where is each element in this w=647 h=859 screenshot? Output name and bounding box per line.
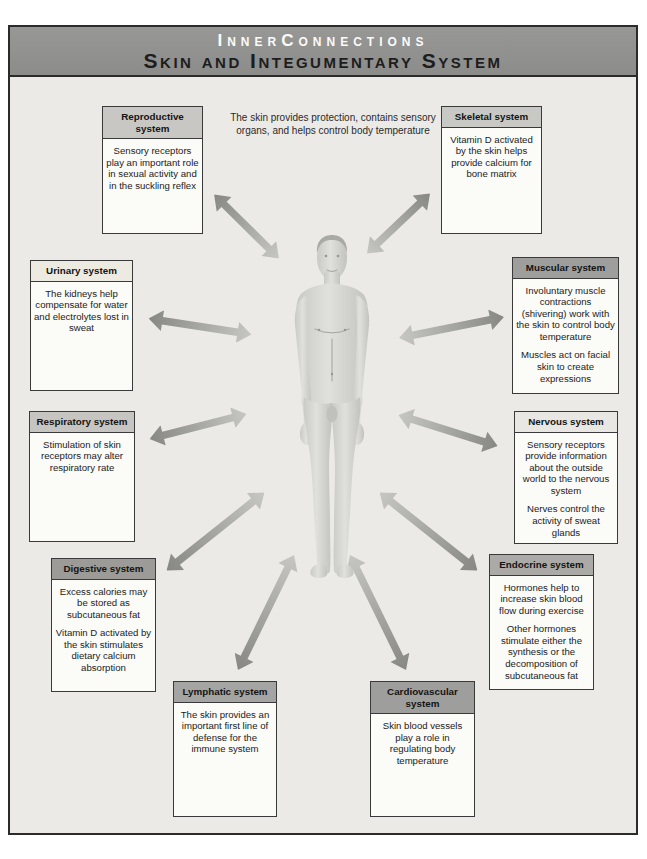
system-box-body: Stimulation of skin receptors may alter … [30,433,134,487]
system-note: Vitamin D activated by the skin helps pr… [445,134,538,180]
system-box-title: Urinary system [31,261,132,282]
system-box-body: Involuntary muscle contractions (shiveri… [513,279,618,398]
system-note: The skin provides an important first lin… [177,709,273,755]
system-box-respiratory: Respiratory system Stimulation of skin r… [29,411,135,542]
system-note: Vitamin D activated by the skin stimulat… [55,627,152,673]
system-box-cardiovascular: Cardiovascular system Skin blood vessels… [370,681,475,817]
system-box-endocrine: Endocrine system Hormones help to increa… [489,554,594,690]
system-box-title: Reproductive system [103,107,202,139]
system-box-body: Hormones help to increase skin blood flo… [490,576,593,695]
system-note: Sensory receptors provide information ab… [518,439,614,497]
system-note: Stimulation of skin receptors may alter … [33,439,131,474]
connection-arrow-muscular [397,307,506,349]
system-box-body: Sensory receptors provide information ab… [515,433,617,552]
diagram-frame: InnerConnections Skin and Integumentary … [8,25,638,835]
system-box-title: Muscular system [513,258,618,279]
system-box-title: Lymphatic system [174,682,276,703]
system-box-body: The kidneys help compensate for water an… [31,282,132,347]
system-note: Muscles act on facial skin to create exp… [516,349,615,384]
system-box-title: Skeletal system [442,107,541,128]
system-box-body: The skin provides an important first lin… [174,703,276,768]
system-box-title: Nervous system [515,412,617,433]
system-box-title: Digestive system [52,559,155,580]
system-note: Other hormones stimulate either the synt… [493,623,590,681]
inner-connections-diagram: InnerConnections Skin and Integumentary … [0,0,647,859]
human-figure-illustration [257,233,407,578]
male-anatomical-figure-icon [257,233,407,578]
system-box-nervous: Nervous system Sensory receptors provide… [514,411,618,544]
connection-arrow-nervous [395,405,501,456]
system-note: Sensory receptors play an important role… [106,145,199,191]
system-box-title: Respiratory system [30,412,134,433]
connection-arrow-digestive [160,484,271,578]
skin-function-caption: The skin provides protection, contains s… [217,112,449,137]
system-note: Involuntary muscle contractions (shiveri… [516,285,615,343]
system-box-title: Endocrine system [490,555,593,576]
diagram-title: InnerConnections [217,31,428,50]
system-note: Hormones help to increase skin blood flo… [493,582,590,617]
system-note: Skin blood vessels play a role in regula… [374,720,471,766]
system-note: The kidneys help compensate for water an… [34,288,129,334]
system-box-skeletal: Skeletal system Vitamin D activated by t… [441,106,542,234]
system-box-lymphatic: Lymphatic system The skin provides an im… [173,681,277,817]
diagram-subtitle: Skin and Integumentary System [144,50,503,72]
system-box-urinary: Urinary system The kidneys help compensa… [30,260,133,391]
system-box-body: Vitamin D activated by the skin helps pr… [442,128,541,193]
system-note: Nerves control the activity of sweat gla… [518,503,614,538]
system-box-body: Excess calories may be stored as subcuta… [52,580,155,687]
system-box-digestive: Digestive system Excess calories may be … [51,558,156,692]
system-box-body: Sensory receptors play an important role… [103,139,202,204]
system-box-reproductive: Reproductive system Sensory receptors pl… [102,106,203,234]
system-box-muscular: Muscular system Involuntary muscle contr… [512,257,619,394]
connection-arrow-urinary [147,308,253,345]
diagram-header: InnerConnections Skin and Integumentary … [10,27,636,77]
system-box-body: Skin blood vessels play a role in regula… [371,714,474,779]
system-box-title: Cardiovascular system [371,682,474,714]
connection-arrow-respiratory [147,404,249,449]
system-note: Excess calories may be stored as subcuta… [55,586,152,621]
